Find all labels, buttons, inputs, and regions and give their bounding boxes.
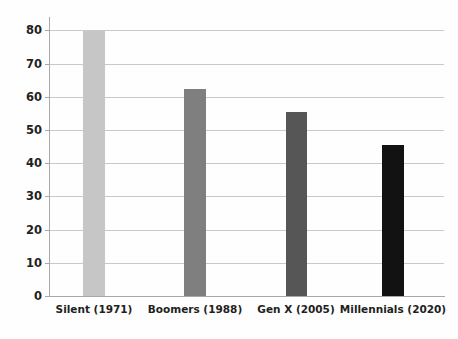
y-axis-label-40: 40 [0, 156, 42, 170]
y-axis-label-70: 70 [0, 57, 42, 71]
gridline-50 [49, 130, 444, 131]
gridline-70 [49, 64, 444, 65]
y-axis-line [49, 17, 50, 297]
y-axis-label-50: 50 [0, 123, 42, 137]
y-tick-mark-50 [45, 130, 49, 131]
category-label-millennials: Millennials (2020) [340, 303, 446, 315]
y-tick-mark-70 [45, 64, 49, 65]
y-tick-mark-40 [45, 163, 49, 164]
y-tick-mark-10 [45, 263, 49, 264]
y-axis-label-10: 10 [0, 256, 42, 270]
y-tick-mark-60 [45, 97, 49, 98]
y-tick-mark-20 [45, 230, 49, 231]
bar-boomers [184, 89, 206, 296]
y-axis-label-80: 80 [0, 23, 42, 37]
y-axis-label-0: 0 [0, 289, 42, 303]
y-tick-mark-0 [45, 296, 49, 297]
category-label-silent: Silent (1971) [56, 303, 133, 315]
gridline-60 [49, 97, 444, 98]
y-axis-label-60: 60 [0, 90, 42, 104]
bar-chart: 80 70 60 50 40 30 20 10 0 Silent (1971) … [0, 0, 458, 339]
x-axis-line [49, 296, 445, 297]
gridline-80 [49, 30, 444, 31]
y-axis-label-30: 30 [0, 189, 42, 203]
plot-area [49, 17, 444, 296]
y-axis-label-20: 20 [0, 223, 42, 237]
bar-millennials [382, 145, 404, 296]
bar-genx [286, 112, 307, 296]
y-tick-mark-30 [45, 196, 49, 197]
category-label-boomers: Boomers (1988) [148, 303, 242, 315]
bar-silent [83, 31, 105, 296]
category-label-genx: Gen X (2005) [257, 303, 334, 315]
y-tick-mark-80 [45, 30, 49, 31]
